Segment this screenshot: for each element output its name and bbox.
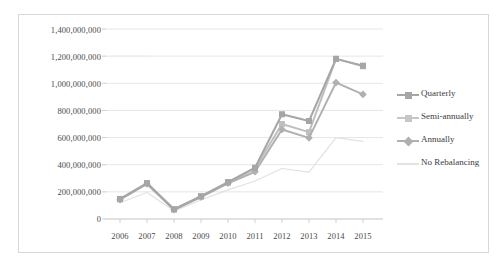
legend-marker-square-icon xyxy=(397,112,419,123)
legend-item-quarterly[interactable]: Quarterly xyxy=(397,88,503,101)
data-point-marker xyxy=(144,180,150,186)
chart-legend: Quarterly Semi-annually Annually xyxy=(397,88,503,180)
legend-item-annually[interactable]: Annually xyxy=(397,134,503,147)
data-point-marker xyxy=(306,118,312,124)
chart-plot-frame: 1,400,000,000 1,200,000,000 1,000,000,00… xyxy=(18,14,489,253)
data-point-marker xyxy=(117,196,123,202)
data-point-marker xyxy=(333,56,339,62)
legend-item-no-rebalancing[interactable]: No Rebalancing xyxy=(397,157,503,170)
chart-figure: 1,400,000,000 1,200,000,000 1,000,000,00… xyxy=(0,0,503,266)
legend-marker-line-icon xyxy=(397,158,419,169)
legend-marker-square-icon xyxy=(397,89,419,100)
data-point-marker xyxy=(360,63,366,69)
series-line xyxy=(120,59,363,209)
legend-label: No Rebalancing xyxy=(419,157,479,169)
data-point-marker xyxy=(332,79,340,87)
legend-item-semi-annually[interactable]: Semi-annually xyxy=(397,111,503,124)
data-point-marker xyxy=(171,206,177,212)
legend-marker-diamond-icon xyxy=(397,135,419,146)
legend-label: Semi-annually xyxy=(419,111,474,122)
data-point-marker xyxy=(279,111,285,117)
legend-label: Quarterly xyxy=(419,88,455,99)
series-lines xyxy=(111,56,367,214)
data-point-marker xyxy=(252,165,258,171)
data-point-marker xyxy=(359,91,367,99)
data-point-marker xyxy=(198,193,204,199)
series-line xyxy=(120,83,363,210)
data-point-marker xyxy=(305,134,313,142)
data-point-marker xyxy=(225,179,231,185)
legend-label: Annually xyxy=(419,134,455,145)
